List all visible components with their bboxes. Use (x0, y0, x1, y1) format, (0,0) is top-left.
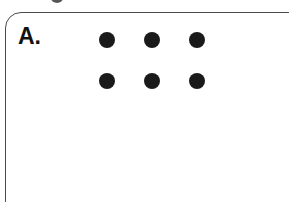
dot-r1-c3 (189, 32, 205, 48)
caption-glyph-fragment (51, 0, 63, 3)
dot-r2-c3 (189, 73, 205, 89)
dot-r2-c1 (99, 73, 115, 89)
panel-label: A. (18, 25, 41, 48)
dot-r1-c2 (144, 32, 160, 48)
dot-r2-c2 (144, 73, 160, 89)
figure-panel-a: A. (0, 0, 289, 202)
dot-grid (99, 32, 234, 114)
dot-r1-c1 (99, 32, 115, 48)
